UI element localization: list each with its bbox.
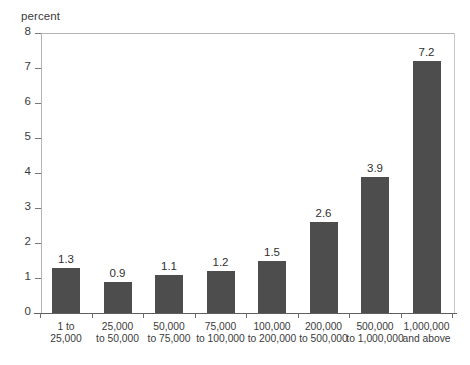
x-axis-tick-mark [401, 313, 402, 318]
x-axis-tick-mark [40, 313, 41, 318]
x-axis-tick-mark [349, 313, 350, 318]
y-axis-tick-label: 3 [7, 200, 31, 212]
bar-group[interactable]: 3.9 [349, 33, 401, 313]
bar-value-label: 1.5 [246, 246, 298, 258]
bar[interactable] [413, 61, 441, 313]
y-axis-tick-label: 2 [7, 235, 31, 247]
x-axis-tick-mark [298, 313, 299, 318]
y-axis-tick-label: 8 [7, 25, 31, 37]
x-axis-category-label: 1,000,000and above [394, 321, 460, 346]
bar[interactable] [207, 271, 235, 313]
y-axis-tick-label: 0 [7, 305, 31, 317]
bar-chart-figure: percent 012345678 1.30.91.11.21.52.63.97… [0, 0, 470, 365]
clipped-footer-caption [352, 354, 470, 365]
bar[interactable] [52, 268, 80, 314]
bar[interactable] [258, 261, 286, 314]
bar-group[interactable]: 0.9 [92, 33, 144, 313]
y-axis-tick-label: 7 [7, 60, 31, 72]
y-axis-tick-label: 1 [7, 270, 31, 282]
bar-value-label: 0.9 [92, 267, 144, 279]
bar[interactable] [104, 282, 132, 314]
bar[interactable] [155, 275, 183, 314]
y-axis-tick-label: 4 [7, 165, 31, 177]
y-axis-unit-label: percent [21, 10, 60, 22]
bar-group[interactable]: 1.3 [40, 33, 92, 313]
bar-group[interactable]: 1.5 [246, 33, 298, 313]
bar-value-label: 1.2 [195, 256, 247, 268]
bar-value-label: 2.6 [298, 207, 350, 219]
x-axis-tick-mark [92, 313, 93, 318]
x-axis-tick-mark [246, 313, 247, 318]
x-axis-category-label-line: and above [394, 333, 460, 345]
bar-group[interactable]: 2.6 [298, 33, 350, 313]
bar-value-label: 3.9 [349, 162, 401, 174]
x-axis-tick-mark [452, 313, 453, 318]
bar-value-label: 1.3 [40, 253, 92, 265]
bar[interactable] [310, 222, 338, 313]
bar-value-label: 7.2 [401, 46, 453, 58]
x-axis-category-label-line: 1,000,000 [394, 321, 460, 333]
bar-group[interactable]: 7.2 [401, 33, 453, 313]
x-axis-tick-mark [143, 313, 144, 318]
x-axis-tick-mark [195, 313, 196, 318]
bar[interactable] [361, 177, 389, 314]
y-axis-tick-label: 6 [7, 95, 31, 107]
bar-value-label: 1.1 [143, 260, 195, 272]
bar-group[interactable]: 1.2 [195, 33, 247, 313]
y-axis-tick-label: 5 [7, 130, 31, 142]
bar-group[interactable]: 1.1 [143, 33, 195, 313]
